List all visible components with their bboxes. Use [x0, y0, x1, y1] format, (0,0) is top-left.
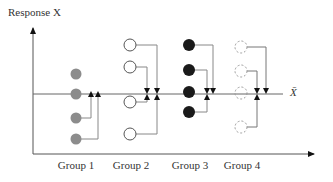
group-4 [235, 41, 269, 133]
arrow-up-icon [154, 94, 160, 100]
mean-label: X̄ [290, 86, 297, 98]
arrow-up-icon [144, 94, 150, 100]
y-axis-label: Response X [8, 6, 61, 18]
arrow-down-icon [263, 88, 269, 94]
arrow-down-icon [210, 88, 216, 94]
group-4-label: Group 4 [224, 159, 260, 171]
arrow-down-icon [154, 88, 160, 94]
group-3-label: Group 3 [172, 159, 208, 171]
diagram-canvas [0, 0, 333, 182]
arrow-up-icon [204, 94, 210, 100]
group-2 [124, 39, 160, 140]
arrow-down-icon [204, 88, 210, 94]
group-1 [71, 69, 102, 145]
arrow-up-icon [254, 94, 260, 100]
group-1-label: Group 1 [58, 159, 94, 171]
group-3 [183, 39, 216, 118]
group-2-label: Group 2 [113, 159, 149, 171]
arrow-down-icon [144, 88, 150, 94]
arrow-down-icon [254, 88, 260, 94]
